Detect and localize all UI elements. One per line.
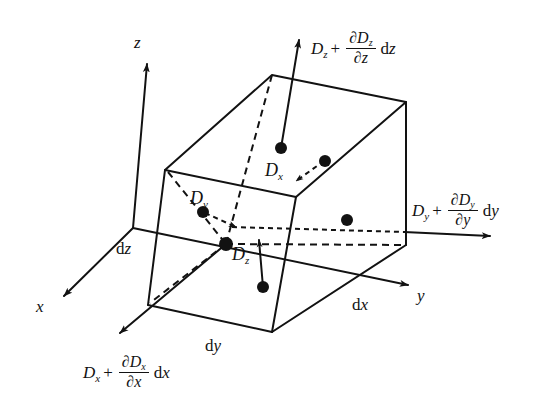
flux-right-denominator: ∂y [452,211,473,229]
box-edge-front-left-vertical [148,170,165,305]
flux-arrow-top-shaft [281,40,299,148]
flux-point-right-face [341,214,353,226]
flux-bottom-denominator: ∂x [123,373,144,391]
flux-arrow-bottom-left-shaft [120,244,226,333]
dz-var: z [125,239,132,258]
flux-arrow-interior-dz-shaft [259,240,263,287]
Dz-symbol: D [232,244,245,264]
flux-right-operator: + [431,202,443,219]
Dz-subscript: z [245,254,249,266]
dy-var: y [214,336,222,355]
flux-right-numerator: ∂Dy [448,192,478,210]
flux-arrow-bottom-left-dx-out [120,237,233,333]
flux-arrow-interior-dx [296,155,331,181]
Dy-symbol: D [190,188,203,208]
axis-label-x: x [36,298,44,315]
flux-right-differential: dy [483,202,499,219]
z-axis-line [133,64,147,228]
flux-bottom-numerator: ∂Dx [119,354,149,372]
axis-label-y: y [417,287,425,304]
hidden-bottom-back-edge-right [226,244,406,245]
flux-point-top-face [275,142,287,154]
flux-right-fraction: ∂Dy ∂y [448,192,478,229]
box-visible-edges [148,75,406,332]
interior-label-Dy: Dy [190,189,208,207]
box-edge-bottom-front-right [272,245,406,332]
flux-bottom-operator: + [102,364,114,381]
flux-top-denominator: ∂z [351,49,371,67]
flux-bottom-differential: dx [154,364,170,381]
dx-var: x [361,295,369,314]
flux-arrow-right-shaft [232,227,404,232]
flux-top-numerator: ∂Dz [346,30,375,48]
flux-right-base: Dy [412,202,429,219]
y-axis-line [133,228,408,285]
dimension-label-dy: dy [205,337,221,354]
flux-point-interior-dz [257,281,269,293]
flux-arrow-top-dz-out [275,40,299,154]
flux-expression-right: Dy+ ∂Dy ∂y dy [412,192,499,229]
flux-diagram-figure: z x y dz dy dx Dx Dy Dz Dz+ ∂Dz ∂z dz Dy… [0,0,552,409]
Dy-subscript: y [203,198,208,210]
flux-top-fraction: ∂Dz ∂z [346,30,375,67]
Dx-symbol: D [265,160,278,180]
Dx-subscript: x [278,170,283,182]
dimension-label-dz: dz [116,240,131,257]
interior-label-Dx: Dx [265,161,283,179]
flux-arrow-right-exit [404,232,490,236]
flux-top-base: Dz [311,40,328,57]
flux-top-operator: + [330,40,342,57]
flux-expression-bottom-left: Dx+ ∂Dx ∂x dx [83,354,170,391]
flux-point-center-corner [219,237,233,251]
box-edge-bottom-front-left [148,305,272,332]
flux-expression-top: Dz+ ∂Dz ∂z dz [311,30,396,67]
box-top-face [165,75,406,197]
interior-label-Dz: Dz [232,245,249,263]
flux-arrow-interior-dz [257,240,269,293]
flux-top-differential: dz [381,40,396,57]
axis-label-z: z [134,34,141,51]
flux-bottom-fraction: ∂Dx ∂x [119,354,149,391]
flux-arrow-interior-dx-shaft [296,161,324,181]
dimension-label-dx: dx [352,296,368,313]
flux-arrow-interior-dy-shaft [205,213,236,227]
hidden-back-left-diagonal [168,172,226,244]
flux-point-interior-dx [319,155,331,167]
box-edge-front-middle-vertical [272,197,296,332]
flux-bottom-base: Dx [83,364,100,381]
